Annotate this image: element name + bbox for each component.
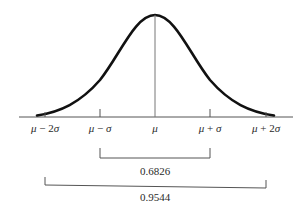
label-mu: μ bbox=[151, 122, 158, 134]
label-mu-plus-sigma: μ + σ bbox=[198, 122, 222, 134]
one-sigma-probability: 0.6826 bbox=[140, 165, 171, 177]
label-mu-minus-2sigma: μ − 2σ bbox=[30, 122, 60, 134]
two-sigma-probability: 0.9544 bbox=[140, 191, 171, 203]
label-mu-minus-sigma: μ − σ bbox=[88, 122, 112, 134]
two-sigma-bracket bbox=[45, 177, 266, 188]
one-sigma-bracket bbox=[100, 148, 210, 158]
normal-distribution-diagram: μ − 2σ μ − σ μ μ + σ μ + 2σ 0.6826 0.954… bbox=[0, 0, 305, 211]
label-mu-plus-2sigma: μ + 2σ bbox=[251, 122, 281, 134]
